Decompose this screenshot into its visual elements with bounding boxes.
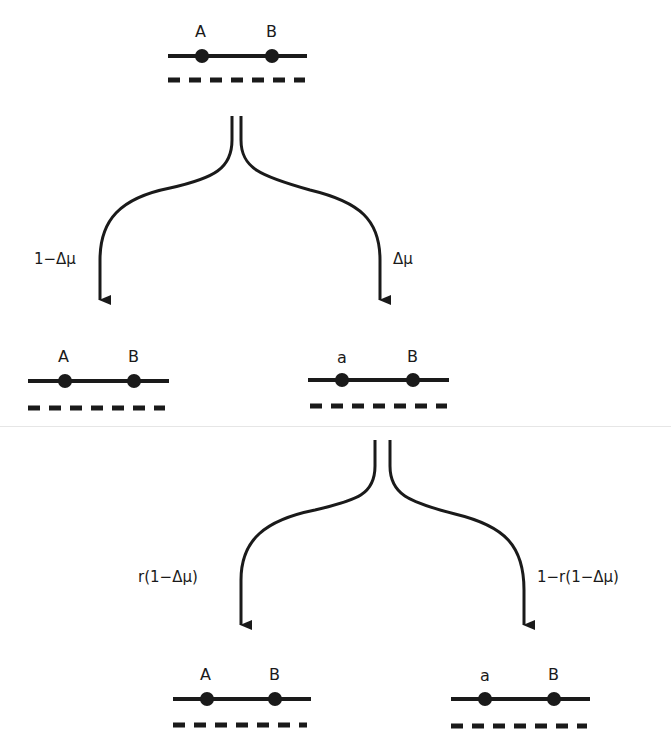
chromosome-left-bottom [173, 692, 311, 725]
locus-label-left-bottom-2: B [269, 667, 280, 683]
chromosome-right-bottom [451, 692, 590, 726]
diagram-canvas [0, 0, 671, 750]
locus-label-left-bottom-1: A [200, 667, 211, 683]
locus-label-right-bottom-2: B [548, 667, 559, 683]
edge-label-no-mutation: 1−Δμ [34, 252, 76, 267]
locus-label-right-bottom-1: a [480, 668, 490, 684]
branch-bottom [241, 440, 524, 625]
locus-label-right-mid-2: B [407, 349, 418, 365]
edge-label-mutation: Δμ [393, 252, 413, 267]
locus-label-right-mid-1: a [337, 350, 347, 366]
chromosome-left-mid [28, 374, 169, 408]
chromosome-right-mid [308, 373, 449, 406]
locus-label-left-mid-1: A [58, 349, 69, 365]
locus-label-root-1: A [195, 24, 206, 40]
chromosome-root [168, 49, 307, 80]
edge-label-no-recombination: 1−r(1−Δμ) [537, 570, 619, 585]
locus-label-left-mid-2: B [128, 349, 139, 365]
locus-label-root-2: B [266, 24, 277, 40]
branch-top [100, 116, 380, 300]
edge-label-recombination: r(1−Δμ) [138, 570, 198, 585]
